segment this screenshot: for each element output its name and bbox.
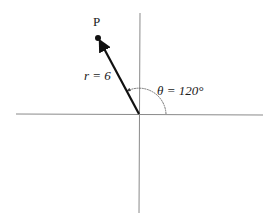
polar-diagram: P r = 6 θ = 120° bbox=[0, 0, 273, 222]
point-p bbox=[95, 35, 101, 41]
point-label: P bbox=[93, 14, 100, 29]
radius-label: r = 6 bbox=[84, 68, 111, 83]
angle-label: θ = 120° bbox=[157, 83, 203, 98]
